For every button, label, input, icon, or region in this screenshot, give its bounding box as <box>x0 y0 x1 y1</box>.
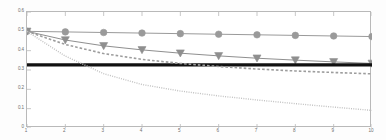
plot-canvas <box>27 12 372 128</box>
x-tick-label: 7 <box>255 129 258 134</box>
x-tick-label: 4 <box>140 129 143 134</box>
series-dotted-series <box>27 31 372 110</box>
x-tick-label: 8 <box>293 129 296 134</box>
data-point-marker-circle <box>292 32 299 39</box>
x-tick-label: 9 <box>331 129 334 134</box>
x-axis-tick-labels: 12345678910 <box>0 129 386 139</box>
data-point-marker-circle <box>254 32 261 39</box>
x-tick-label: 2 <box>63 129 66 134</box>
data-point-marker-circle <box>100 29 107 36</box>
y-tick-label: 0.4 <box>18 47 24 52</box>
x-tick-label: 1 <box>25 129 28 134</box>
x-tick-label: 5 <box>178 129 181 134</box>
chart-figure: 00.10.20.30.40.50.6 12345678910 <box>0 0 386 140</box>
series-line <box>27 31 372 74</box>
series-line <box>27 31 372 36</box>
y-axis-tick-labels: 00.10.20.30.40.50.6 <box>4 0 24 140</box>
x-tick-label: 6 <box>216 129 219 134</box>
data-point-marker-circle <box>62 29 69 36</box>
data-point-marker-circle <box>177 30 184 37</box>
series-circle-marker-series <box>27 28 372 40</box>
data-point-marker-circle <box>330 33 337 40</box>
data-point-marker-circle <box>139 30 146 37</box>
y-tick-label: 0.6 <box>18 9 24 14</box>
x-tick-label: 10 <box>368 129 373 134</box>
y-tick-label: 0.2 <box>18 86 24 91</box>
plot-area <box>26 11 371 127</box>
x-tick-label: 3 <box>101 129 104 134</box>
series-dashed-series <box>27 31 372 74</box>
series-line <box>27 31 372 110</box>
y-tick-label: 0.1 <box>18 105 24 110</box>
y-tick-label: 0.5 <box>18 28 24 33</box>
data-point-marker-circle <box>369 33 372 40</box>
data-point-marker-circle <box>215 31 222 38</box>
y-tick-label: 0.3 <box>18 67 24 72</box>
